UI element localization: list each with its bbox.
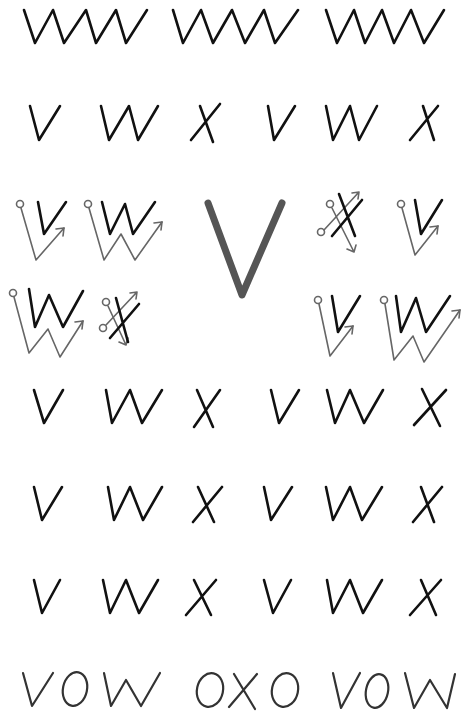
letter-row-1-glyphs: [0, 100, 461, 150]
letter-row-4: V: [0, 575, 461, 625]
letter-row-2-glyphs: [0, 385, 461, 435]
letter-row-2: V: [0, 385, 461, 435]
stroke-guide-v-1: [10, 190, 80, 270]
stroke-guide-x-2: [98, 290, 148, 360]
letter-row-3: V: [0, 482, 461, 532]
stroke-guide-w-1: [80, 190, 170, 270]
zigzag-pattern-1: [0, 0, 461, 60]
letter-row-4-glyphs: [0, 575, 461, 625]
stroke-guide-v-3: [310, 290, 370, 370]
stroke-guide-x-1: [315, 190, 375, 270]
stroke-guide-w-3: [376, 290, 461, 370]
feature-letter-v: [195, 195, 295, 305]
stroke-guide-w-2: [5, 285, 95, 365]
stroke-guide-v-2: [395, 190, 455, 270]
letter-row-3-glyphs: [0, 482, 461, 532]
zigzag-row: zigzag: [0, 0, 461, 60]
letter-row-1: V: [0, 100, 461, 150]
stroke-guide-section: V: [0, 190, 461, 365]
practice-words-glyphs: [0, 670, 461, 715]
practice-words-row: VOW OXO VOW: [0, 670, 461, 715]
